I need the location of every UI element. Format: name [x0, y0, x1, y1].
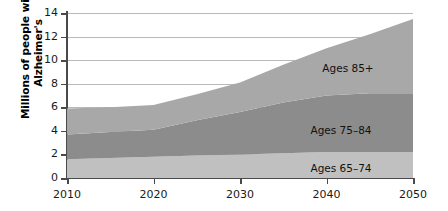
x-axis-tick-label: 2040: [297, 188, 357, 201]
y-axis-tick-label: 4: [18, 124, 58, 137]
series-label-ages-75-84: Ages 75–84: [310, 124, 371, 136]
x-axis-tick-label: 2050: [383, 188, 443, 201]
y-axis-tick-label: 0: [18, 171, 58, 184]
chart-container: Millions of people with Alzheimer's 0246…: [0, 0, 448, 211]
y-axis-tick-label: 2: [18, 147, 58, 160]
y-axis-tick-label: 6: [18, 100, 58, 113]
y-axis-tick-label: 14: [18, 6, 58, 19]
x-axis-tick-label: 2020: [124, 188, 184, 201]
x-axis-tick-label: 2030: [210, 188, 270, 201]
series-label-ages-85: Ages 85+: [322, 62, 373, 74]
stacked-area-svg: [67, 13, 413, 178]
x-axis-tick-label: 2010: [37, 188, 97, 201]
x-axis-tick: [154, 178, 156, 184]
series-label-ages-65-74: Ages 65–74: [310, 162, 371, 174]
x-axis-tick: [327, 178, 329, 184]
x-axis-tick: [413, 178, 415, 184]
plot-area: [67, 13, 413, 178]
x-axis-tick: [240, 178, 242, 184]
y-axis-tick-label: 8: [18, 77, 58, 90]
x-axis-tick: [67, 178, 69, 184]
y-axis-tick-label: 10: [18, 53, 58, 66]
y-axis-tick-label: 12: [18, 30, 58, 43]
